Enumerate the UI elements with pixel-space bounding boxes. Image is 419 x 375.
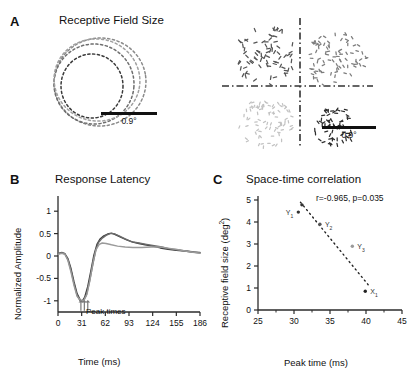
panel-c-xticklabel-4: 45 bbox=[397, 316, 407, 326]
panel-c-title: Space-time correlation bbox=[246, 173, 361, 185]
panel-b-xticklabel-4: 124 bbox=[146, 318, 160, 328]
panel-b-yticklabel-0: 1 bbox=[46, 206, 51, 216]
panel-b-xticklabel-0: 0 bbox=[56, 318, 61, 328]
panel-c-ylabel-sup: 2 bbox=[218, 221, 225, 225]
panel-b-xticklabel-1: 31 bbox=[77, 318, 87, 328]
curve-2 bbox=[58, 234, 200, 301]
panel-c-yticklabel-1: 1 bbox=[246, 283, 251, 293]
panel-c-ylabel-close: ) bbox=[219, 218, 230, 221]
point-y3-label: Y2 bbox=[325, 221, 333, 231]
scalebar-right-label: 0.9° bbox=[322, 130, 376, 140]
panel-c-xticklabel-0: 25 bbox=[253, 316, 263, 326]
panel-c: C Space-time correlation Receptive field… bbox=[206, 160, 419, 375]
point-x1 bbox=[364, 290, 367, 293]
blob-lower-left bbox=[239, 101, 293, 148]
correlation-text: r=-0.965, p=0.035 bbox=[316, 193, 384, 203]
point-y4-label: Y3 bbox=[357, 243, 365, 253]
curve-3 bbox=[58, 243, 200, 301]
peak-time-arrow-0 bbox=[79, 300, 84, 311]
point-y2 bbox=[300, 203, 303, 206]
panel-b-xticklabel-3: 93 bbox=[124, 318, 134, 328]
panel-c-xlabel: Peak time (ms) bbox=[284, 357, 348, 368]
panel-b-svg: 10.50-0.5-10316293124155186 bbox=[0, 160, 210, 375]
curve-1 bbox=[58, 233, 200, 301]
scalebar-left-label: 0.9° bbox=[101, 116, 157, 126]
panel-b-yticklabel-1: 0.5 bbox=[39, 229, 51, 239]
panel-c-xticklabel-1: 30 bbox=[289, 316, 299, 326]
scalebar-left-bar bbox=[101, 112, 157, 115]
panel-c-yticklabel-3: 3 bbox=[246, 239, 251, 249]
scalebar-right: 0.9° bbox=[322, 126, 376, 140]
panel-c-svg: 0123452530354045Y1Y2Y3X1 bbox=[206, 160, 419, 375]
panel-c-xticklabel-3: 40 bbox=[361, 316, 371, 326]
panel-b-yticklabel-2: 0 bbox=[46, 251, 51, 261]
scalebar-right-bar bbox=[322, 126, 376, 129]
point-y1 bbox=[297, 210, 300, 213]
panel-b-yticklabel-4: -1 bbox=[43, 296, 51, 306]
point-x1-label: X1 bbox=[370, 288, 378, 298]
panel-b: B Response Latency Normalized Amplitude … bbox=[0, 160, 210, 375]
panel-a-letter: A bbox=[10, 14, 19, 29]
scalebar-left: 0.9° bbox=[101, 112, 157, 126]
contour-inner bbox=[61, 54, 123, 118]
panel-c-xticklabel-2: 35 bbox=[325, 316, 335, 326]
panel-c-yticklabel-0: 0 bbox=[246, 305, 251, 315]
point-y3 bbox=[318, 223, 321, 226]
panel-b-title: Response Latency bbox=[55, 173, 150, 185]
panel-b-letter: B bbox=[10, 172, 19, 187]
blob-upper-right bbox=[309, 33, 368, 86]
panel-c-ylabel: Receptive field size (deg2) bbox=[218, 218, 230, 328]
point-y4 bbox=[351, 245, 354, 248]
blob-upper-left bbox=[238, 27, 293, 86]
panel-c-yticklabel-4: 4 bbox=[246, 217, 251, 227]
panel-c-ylabel-base: Receptive field size (deg bbox=[219, 225, 230, 329]
panel-b-xticklabel-2: 62 bbox=[101, 318, 111, 328]
panel-b-yticklabel-3: -0.5 bbox=[36, 273, 51, 283]
panel-c-yticklabel-2: 2 bbox=[246, 261, 251, 271]
point-y1-label: Y1 bbox=[286, 209, 294, 219]
panel-b-ylabel: Normalized Amplitude bbox=[12, 228, 23, 320]
peak-times-annotation: Peak times bbox=[86, 307, 126, 316]
panel-b-xlabel: Time (ms) bbox=[78, 356, 120, 367]
panel-c-letter: C bbox=[213, 172, 222, 187]
panel-c-yticklabel-5: 5 bbox=[246, 195, 251, 205]
panel-b-xticklabel-5: 155 bbox=[169, 318, 183, 328]
figure-root: A Receptive Field Size 0.9° 0.9° B Respo… bbox=[0, 0, 419, 375]
